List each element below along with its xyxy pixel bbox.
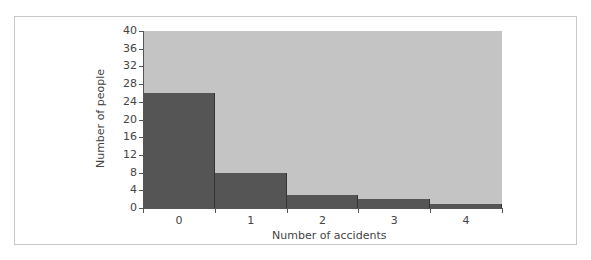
y-tick-label: 40	[123, 25, 137, 37]
x-tick-label: 4	[456, 214, 476, 227]
y-tick	[139, 173, 143, 174]
y-tick	[139, 155, 143, 156]
x-tick-label: 1	[241, 214, 261, 227]
x-tick	[215, 208, 216, 213]
x-tick-label: 3	[384, 214, 404, 227]
bar-0	[143, 93, 215, 208]
y-tick-label: 24	[123, 96, 137, 108]
x-tick	[502, 208, 503, 213]
x-tick	[430, 208, 431, 213]
y-tick	[139, 84, 143, 85]
x-tick	[358, 208, 359, 213]
y-tick	[139, 137, 143, 138]
x-axis-title: Number of accidents	[272, 229, 386, 242]
x-tick-label: 0	[169, 214, 189, 227]
y-tick	[139, 190, 143, 191]
bar-2	[287, 195, 359, 208]
y-tick-label: 4	[130, 184, 137, 196]
y-tick-label: 20	[123, 114, 137, 126]
y-tick	[139, 31, 143, 32]
y-tick-label: 0	[130, 202, 137, 214]
y-tick-label: 8	[130, 167, 137, 179]
y-tick	[139, 66, 143, 67]
y-tick-label: 36	[123, 43, 137, 55]
y-axis-title: Number of people	[94, 59, 107, 179]
y-tick	[139, 120, 143, 121]
x-axis-line	[143, 208, 502, 209]
x-tick	[287, 208, 288, 213]
y-tick	[139, 49, 143, 50]
y-tick-label: 16	[123, 131, 137, 143]
y-tick-label: 28	[123, 78, 137, 90]
plot-area	[143, 31, 502, 208]
y-tick-label: 12	[123, 149, 137, 161]
x-tick	[143, 208, 144, 213]
y-axis-line	[143, 31, 144, 209]
x-tick-label: 2	[313, 214, 333, 227]
y-tick-label: 32	[123, 60, 137, 72]
bar-1	[215, 173, 287, 208]
bar-3	[358, 199, 430, 208]
y-tick	[139, 102, 143, 103]
